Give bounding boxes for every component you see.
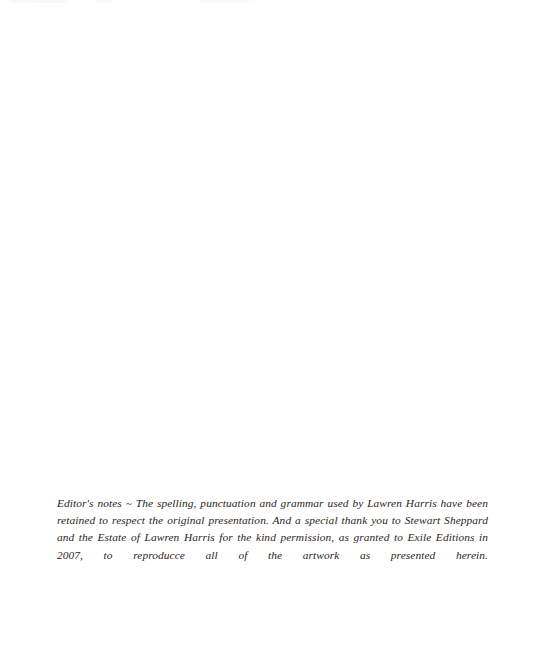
editor-note-block: Editor's notes ~ The spelling, punctuati…	[57, 495, 488, 581]
scanned-page: Editor's notes ~ The spelling, punctuati…	[0, 0, 543, 670]
editor-note-paragraph: Editor's notes ~ The spelling, punctuati…	[57, 495, 488, 581]
blank-page-area	[0, 0, 543, 492]
